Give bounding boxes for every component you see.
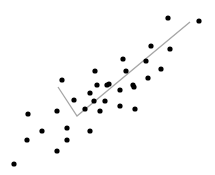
data-point bbox=[54, 148, 59, 153]
data-point bbox=[131, 84, 136, 89]
data-point bbox=[94, 82, 99, 87]
data-point bbox=[87, 90, 92, 95]
data-point bbox=[148, 43, 153, 48]
data-point bbox=[165, 15, 170, 20]
trend-line bbox=[58, 22, 190, 116]
data-point bbox=[117, 103, 122, 108]
data-point bbox=[91, 98, 96, 103]
data-point bbox=[143, 58, 148, 63]
data-point bbox=[64, 137, 69, 142]
data-point bbox=[167, 46, 172, 51]
data-point bbox=[145, 75, 150, 80]
data-point bbox=[59, 77, 64, 82]
data-point bbox=[11, 161, 16, 166]
data-point bbox=[158, 66, 163, 71]
data-point bbox=[123, 68, 128, 73]
data-point bbox=[102, 98, 107, 103]
data-point bbox=[106, 81, 111, 86]
data-point bbox=[117, 87, 122, 92]
scatter-chart bbox=[0, 0, 215, 175]
data-point bbox=[54, 108, 59, 113]
data-point bbox=[87, 128, 92, 133]
data-point bbox=[71, 97, 76, 102]
data-point bbox=[196, 18, 201, 23]
data-point bbox=[132, 106, 137, 111]
data-point bbox=[92, 68, 97, 73]
data-point bbox=[24, 137, 29, 142]
data-point bbox=[64, 125, 69, 130]
data-point bbox=[25, 111, 30, 116]
data-point bbox=[97, 108, 102, 113]
data-point bbox=[120, 56, 125, 61]
data-point bbox=[39, 128, 44, 133]
data-point bbox=[82, 106, 87, 111]
